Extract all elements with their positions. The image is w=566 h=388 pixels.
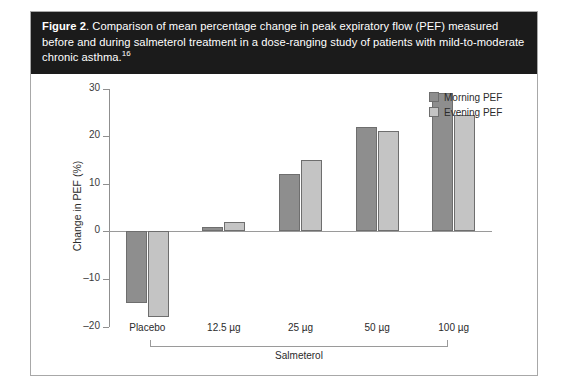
bar-evening: [454, 115, 475, 232]
figure-caption-bar: Figure 2. Comparison of mean percentage …: [31, 12, 537, 74]
x-axis-category-label: 25 µg: [288, 322, 313, 333]
plot-region: Change in PEF (%) 3020100–10–20 Placebo1…: [31, 74, 537, 388]
x-axis-category-label: 100 µg: [438, 322, 469, 333]
legend-item: Morning PEF: [429, 92, 502, 103]
figure-caption-text: Comparison of mean percentage change in …: [42, 20, 524, 63]
y-axis-tick: 0: [103, 231, 109, 232]
plot-area: 3020100–10–20: [109, 89, 492, 327]
y-axis-tick-label: –10: [83, 272, 100, 283]
legend-label: Morning PEF: [444, 92, 502, 103]
legend-item: Evening PEF: [429, 107, 502, 118]
reference-superscript: 16: [122, 49, 131, 58]
y-axis-tick-label: 10: [89, 177, 100, 188]
y-axis-tick-label: 0: [94, 224, 100, 235]
bar-morning: [202, 227, 223, 232]
y-axis-tick-label: –20: [83, 320, 100, 331]
bar-evening: [301, 160, 322, 231]
y-axis-line: [109, 89, 110, 327]
x-axis-category-label: Placebo: [129, 322, 165, 333]
y-axis-tick: 30: [103, 89, 109, 90]
y-axis-tick-label: 30: [89, 82, 100, 93]
figure-card: Figure 2. Comparison of mean percentage …: [30, 11, 538, 376]
bar-morning: [279, 174, 300, 231]
chart-legend: Morning PEFEvening PEF: [429, 92, 502, 122]
salmeterol-bracket: [150, 340, 448, 347]
y-axis-tick: –10: [103, 279, 109, 280]
legend-swatch-icon: [429, 92, 439, 102]
y-axis-tick: –20: [103, 327, 109, 328]
x-axis-title: Salmeterol: [275, 350, 323, 361]
x-axis-category-label: 50 µg: [364, 322, 389, 333]
legend-swatch-icon: [429, 107, 439, 117]
bar-evening: [224, 222, 245, 232]
y-axis-tick: 10: [103, 184, 109, 185]
x-axis-category-label: 12.5 µg: [207, 322, 241, 333]
bar-evening: [378, 131, 399, 231]
bar-morning: [356, 127, 377, 232]
legend-label: Evening PEF: [444, 107, 502, 118]
bar-morning: [126, 231, 147, 302]
y-axis-tick: 20: [103, 136, 109, 137]
figure-number: Figure 2: [42, 20, 86, 32]
y-axis-tick-label: 20: [89, 129, 100, 140]
bar-evening: [148, 231, 169, 317]
y-axis-title: Change in PEF (%): [71, 160, 83, 250]
